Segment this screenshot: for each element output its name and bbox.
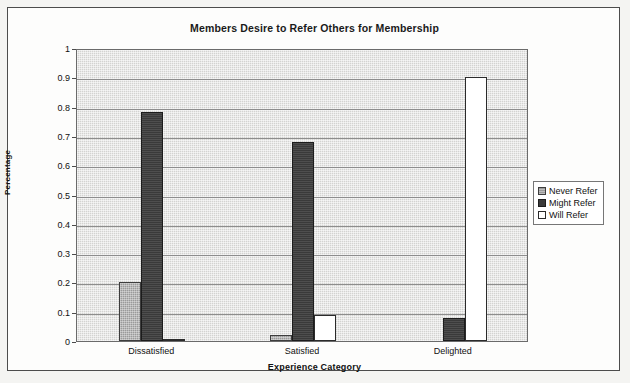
x-axis-ticks: DissatisfiedSatisfiedDelighted	[76, 346, 528, 362]
legend-swatch-never-refer	[538, 187, 546, 195]
plot-area	[76, 49, 528, 342]
chart-title: Members Desire to Refer Others for Membe…	[8, 22, 621, 34]
legend-item-will-refer: Will Refer	[538, 209, 598, 221]
bar-delighted-will-refer	[465, 77, 487, 341]
bar-dissatisfied-might-refer	[141, 112, 163, 341]
bar-delighted-might-refer	[443, 318, 465, 341]
x-tick-label-satisfied: Satisfied	[285, 346, 320, 356]
y-axis-title: Percentage	[3, 150, 12, 195]
legend-swatch-might-refer	[538, 199, 546, 207]
y-tick-label: 0.3	[57, 249, 70, 259]
gridline	[77, 109, 527, 110]
legend-item-might-refer: Might Refer	[538, 197, 598, 209]
x-tick-label-delighted: Delighted	[434, 346, 472, 356]
bar-dissatisfied-will-refer	[163, 339, 185, 341]
chart-frame: Members Desire to Refer Others for Membe…	[7, 7, 620, 371]
y-tick-label: 0	[65, 337, 70, 347]
y-tick-label: 0.2	[57, 278, 70, 288]
y-tick-label: 1	[65, 44, 70, 54]
bar-dissatisfied-never-refer	[119, 282, 141, 341]
page-background: Members Desire to Refer Others for Membe…	[0, 0, 630, 383]
legend-label: Never Refer	[549, 187, 598, 196]
y-tick-label: 0.1	[57, 308, 70, 318]
chart-legend: Never ReferMight ReferWill Refer	[533, 181, 604, 225]
y-tick-label: 0.6	[57, 161, 70, 171]
y-tick-label: 0.5	[57, 191, 70, 201]
bar-satisfied-will-refer	[314, 315, 336, 341]
y-tick-label: 0.8	[57, 103, 70, 113]
x-axis-title: Experience Category	[8, 362, 621, 372]
y-tick-mark	[72, 342, 76, 343]
legend-swatch-will-refer	[538, 211, 546, 219]
bar-satisfied-never-refer	[270, 335, 292, 341]
bar-satisfied-might-refer	[292, 142, 314, 341]
y-tick-label: 0.7	[57, 132, 70, 142]
y-tick-label: 0.9	[57, 73, 70, 83]
gridline	[77, 79, 527, 80]
legend-label: Will Refer	[549, 211, 588, 220]
y-axis-ticks: 00.10.20.30.40.50.60.70.80.91	[36, 49, 76, 342]
legend-label: Might Refer	[549, 199, 596, 208]
x-tick-label-dissatisfied: Dissatisfied	[128, 346, 174, 356]
y-tick-label: 0.4	[57, 220, 70, 230]
legend-item-never-refer: Never Refer	[538, 185, 598, 197]
